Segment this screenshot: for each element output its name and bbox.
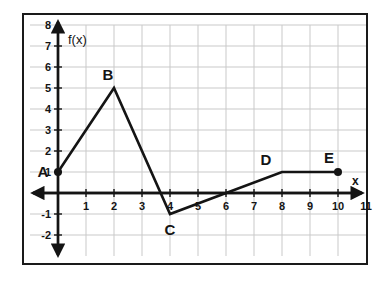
- x-tick-label-2: 2: [111, 200, 117, 212]
- x-tick-label-7: 7: [251, 200, 257, 212]
- data-point-e: [334, 168, 342, 176]
- y-tick-label-3: 3: [45, 124, 51, 136]
- x-tick-label-1: 1: [83, 200, 89, 212]
- data-point-a: [54, 168, 62, 176]
- x-tick-label-3: 3: [139, 200, 145, 212]
- y-tick-label-8: 8: [45, 19, 51, 31]
- point-label-a: A: [38, 163, 49, 180]
- y-tick-label-minus-2: -2: [41, 229, 51, 241]
- y-tick-label-5: 5: [45, 82, 51, 94]
- point-label-c: C: [165, 221, 176, 238]
- y-tick-label-2: 2: [45, 145, 51, 157]
- graph-figure: 8 7 6 5 4 3 2 1 -1 -2 1 2 3 4 5 6 7 8 9 …: [0, 0, 388, 282]
- x-tick-label-10: 10: [332, 200, 344, 212]
- y-axis-title: f(x): [68, 32, 87, 47]
- x-tick-label-8: 8: [279, 200, 285, 212]
- point-label-d: D: [261, 151, 272, 168]
- point-label-b: B: [103, 66, 114, 83]
- point-label-e: E: [324, 149, 334, 166]
- function-graph-plot: 8 7 6 5 4 3 2 1 -1 -2 1 2 3 4 5 6 7 8 9 …: [0, 0, 388, 282]
- y-tick-label-4: 4: [45, 103, 52, 115]
- x-tick-label-9: 9: [307, 200, 313, 212]
- y-tick-label-7: 7: [45, 40, 51, 52]
- x-tick-label-11: 11: [360, 200, 372, 212]
- x-axis-title: x: [352, 174, 359, 188]
- y-tick-label-6: 6: [45, 61, 51, 73]
- x-tick-label-6: 6: [223, 200, 229, 212]
- x-tick-labels: 1 2 3 4 5 6 7 8 9 10 11: [83, 200, 372, 212]
- y-tick-label-minus-1: -1: [41, 208, 51, 220]
